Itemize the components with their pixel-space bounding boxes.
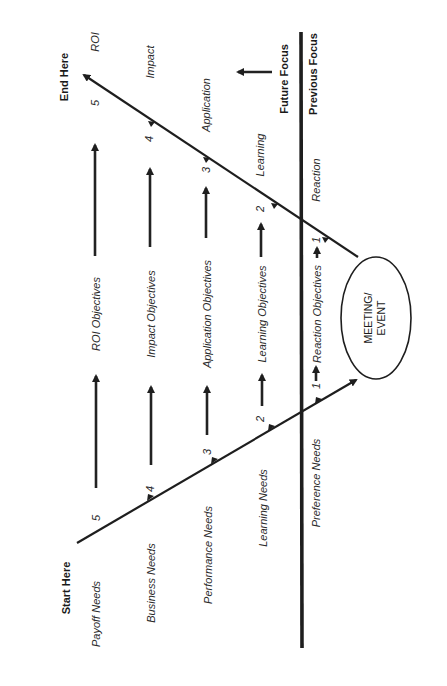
start-here-label: Start Here <box>60 562 72 615</box>
v-model-diagram: MEETING/ EVENT Start Here End Here Payof… <box>0 0 447 686</box>
previous-focus-label: Previous Focus <box>307 33 319 115</box>
need-level-3: 3 <box>201 448 213 455</box>
need-label-performance: Performance Needs <box>202 506 214 604</box>
objective-label-learning: Learning Objectives <box>256 265 268 363</box>
meeting-event-node: MEETING/ EVENT <box>341 257 411 379</box>
eval-level-4: 4 <box>143 136 155 142</box>
event-label-line1: MEETING/ <box>362 293 374 344</box>
eval-label-roi: ROI <box>89 32 101 52</box>
objective-label-reaction: Reaction Objectives <box>311 265 323 363</box>
need-label-learning: Learning Needs <box>257 469 269 547</box>
eval-level-1: 1 <box>310 237 322 243</box>
future-focus-label: Future Focus <box>278 44 290 114</box>
need-level-1: 1 <box>310 383 322 389</box>
eval-label-reaction: Reaction <box>310 158 322 201</box>
focus-divider-line <box>301 32 302 648</box>
objective-label-application: Application Objectives <box>201 259 213 369</box>
need-label-business: Business Needs <box>145 543 157 623</box>
need-label-payoff: Payoff Needs <box>90 580 102 647</box>
eval-label-learning: Learning <box>254 133 266 177</box>
eval-label-application: Application <box>200 78 212 133</box>
eval-level-5: 5 <box>89 99 101 106</box>
need-level-5: 5 <box>90 514 102 521</box>
need-level-4: 4 <box>144 486 156 492</box>
objective-label-impact: Impact Objectives <box>145 270 157 358</box>
eval-label-impact: Impact <box>144 45 156 79</box>
eval-level-3: 3 <box>200 166 212 173</box>
objective-label-roi: ROI Objectives <box>90 277 102 351</box>
eval-level-2: 2 <box>254 206 266 213</box>
event-label-line2: EVENT <box>375 300 387 336</box>
end-here-label: End Here <box>58 53 70 101</box>
need-label-preference: Preference Needs <box>310 438 322 527</box>
need-level-2: 2 <box>254 416 266 423</box>
